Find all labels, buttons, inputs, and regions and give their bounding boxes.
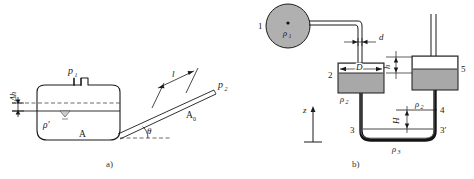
label-item-3-prime: 3′ (440, 125, 447, 135)
free-surface-symbol (60, 111, 70, 117)
label-p1-subscript: 1 (75, 72, 78, 78)
inclined-tube-tip (214, 90, 216, 94)
figure-container: p 1 Δh ρ′ A θ l (0, 0, 474, 179)
label-rho2-right-subscript: 2 (421, 104, 424, 110)
d-arrow-left (353, 40, 358, 45)
label-height-H: H (391, 117, 401, 125)
diagram-b-group: ρ 1 1 d 2 D ρ 2 5 (258, 4, 466, 169)
diagram-a-group: p 1 Δh ρ′ A θ l (8, 65, 228, 169)
H-arrow-down (405, 124, 409, 129)
label-rho2-left-subscript: 2 (346, 99, 349, 105)
vessel-5-white-band (413, 57, 457, 69)
label-rho2-left: ρ (339, 94, 344, 104)
label-p2-subscript: 2 (225, 86, 228, 92)
label-axis-z: z (302, 105, 307, 115)
label-item-2: 2 (328, 70, 333, 80)
caption-a: a) (106, 159, 113, 169)
length-arrow-left (159, 84, 165, 88)
z-axis-arrowhead (311, 106, 316, 112)
length-arrow-right (188, 71, 194, 75)
d-arrow-right (362, 40, 367, 45)
label-rho2-right: ρ (414, 99, 419, 109)
label-area-A0: A (186, 110, 193, 120)
H-arrow-up (405, 110, 409, 115)
label-tube-length: l (172, 69, 175, 79)
label-point-A: A (79, 129, 86, 139)
technical-figure: p 1 Δh ρ′ A θ l (0, 0, 474, 179)
label-rho1-subscript: 1 (289, 33, 292, 39)
label-height-h: h (382, 65, 392, 69)
label-area-A0-subscript: 0 (193, 116, 196, 122)
h-arrow-up (394, 57, 398, 62)
inclined-tube-upper-wall (118, 90, 214, 134)
label-rho3: ρ (391, 144, 396, 154)
label-p1: p (67, 65, 73, 76)
u-tube-pipe-inner-highlight (361, 90, 434, 138)
inclined-tube-lower-wall (120, 94, 216, 139)
source-center-dot (286, 21, 289, 24)
source-vessel-circle (266, 4, 310, 48)
caption-b: b) (352, 159, 360, 169)
label-item-4: 4 (440, 105, 445, 115)
label-diameter-D: D (355, 62, 363, 72)
connecting-tube-inner (309, 25, 358, 63)
u-tube-pipe (361, 90, 435, 140)
label-diameter-d: d (379, 32, 384, 42)
label-item-3: 3 (350, 125, 355, 135)
label-theta: θ (147, 126, 152, 136)
label-delta-h: Δh (8, 92, 18, 102)
label-item-5: 5 (461, 64, 466, 74)
label-item-1: 1 (258, 21, 263, 31)
label-rho1: ρ (282, 28, 287, 38)
label-rho-prime: ρ′ (42, 120, 51, 130)
label-rho3-subscript: 3 (397, 149, 401, 155)
h-arrow-down (394, 68, 398, 73)
label-p2: p (217, 79, 223, 90)
